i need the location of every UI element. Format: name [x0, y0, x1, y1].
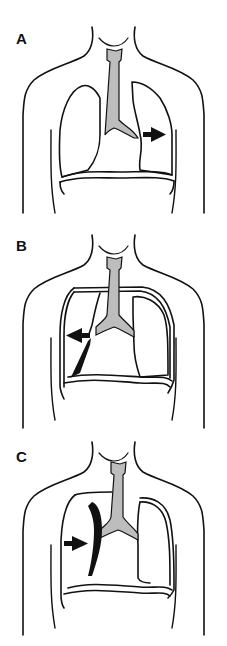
lung-right — [60, 86, 100, 178]
pneumothorax-wedge — [70, 338, 91, 378]
chest-diagram-b — [0, 215, 227, 430]
dark-band — [88, 502, 102, 576]
trachea-c — [100, 462, 138, 540]
trachea-b — [96, 257, 134, 337]
arrow-left-icon — [66, 328, 90, 343]
panel-b: B — [0, 215, 227, 430]
chest-diagram-a — [0, 0, 227, 215]
arrow-right-icon — [64, 536, 88, 551]
panel-a: A — [0, 0, 227, 215]
chest-diagram-c — [0, 430, 227, 646]
panel-c: C — [0, 430, 227, 645]
